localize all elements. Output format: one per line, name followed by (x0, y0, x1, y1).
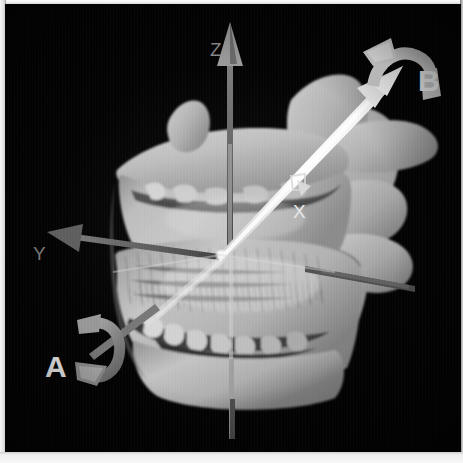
vertebra-bone-model (105, 74, 438, 409)
rotation-a-arrowhead-top (77, 314, 101, 334)
figure-stage: Z Y X A B (0, 0, 463, 463)
axis-label-z: Z (210, 40, 222, 59)
rotation-label-b: B (418, 66, 440, 96)
axis-y-arrowhead (47, 224, 83, 252)
frame-edge-bottom (0, 452, 463, 463)
vertebra-3d-render (5, 4, 461, 452)
render-canvas: Z Y X A B (5, 4, 461, 452)
axis-label-x: X (293, 202, 306, 221)
rotation-label-a: A (45, 352, 67, 382)
axis-label-y: Y (33, 244, 46, 263)
